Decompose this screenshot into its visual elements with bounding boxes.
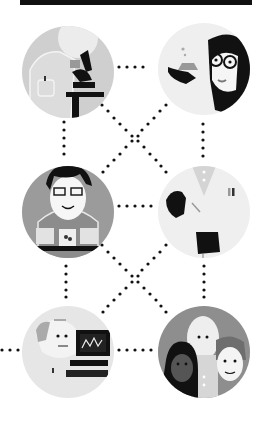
figure-scientist-microscope: [22, 18, 114, 130]
figure-group: [158, 306, 250, 405]
figure-researcher-laptops: [22, 166, 114, 260]
figure-scientist-flask: [158, 23, 250, 120]
figure-doctor: [158, 166, 250, 265]
network-illustration: [0, 0, 258, 426]
figure-elder-computer: [22, 306, 114, 398]
